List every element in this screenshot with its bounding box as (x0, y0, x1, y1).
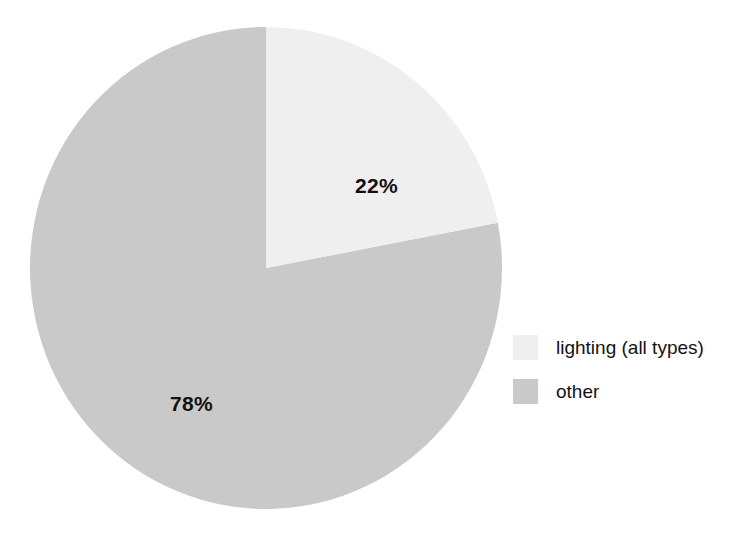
chart-legend: lighting (all types) other (513, 325, 725, 413)
pie-chart-figure: 22% 78% lighting (all types) other (0, 0, 733, 544)
pie-svg (30, 27, 502, 509)
legend-item-lighting[interactable]: lighting (all types) (513, 325, 725, 369)
pie-label-other: 78% (170, 392, 213, 416)
legend-item-other[interactable]: other (513, 369, 725, 413)
legend-label-lighting: lighting (all types) (556, 338, 704, 357)
pie-label-lighting: 22% (355, 174, 398, 198)
chart-title-cropped (0, 0, 733, 4)
legend-swatch-lighting-icon (513, 335, 538, 360)
legend-label-other: other (556, 382, 599, 401)
pie-chart-plot-area: 22% 78% (30, 27, 502, 509)
legend-swatch-other-icon (513, 379, 538, 404)
